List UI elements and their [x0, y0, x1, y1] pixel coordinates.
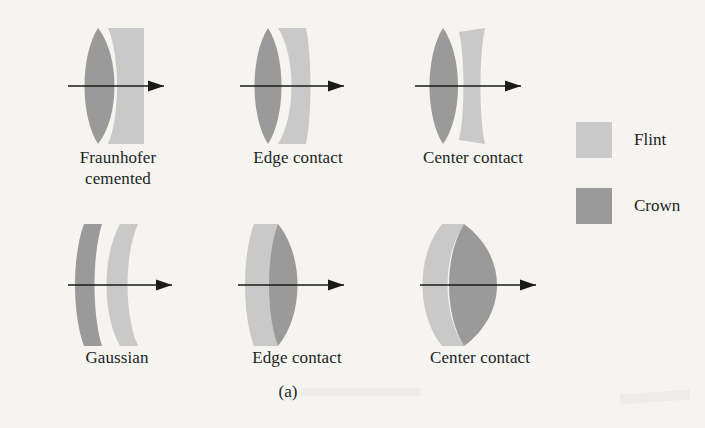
lens-diagram-bottom-center-contact — [420, 222, 550, 348]
flint-swatch — [576, 122, 612, 158]
group-label-top-edge-contact: Edge contact — [218, 148, 378, 169]
optical-axis-arrowhead — [156, 280, 172, 291]
lens-group-top-edge-contact — [240, 26, 350, 146]
lens-diagram-top-center-contact — [415, 26, 525, 146]
lens-group-top-center-contact — [415, 26, 525, 146]
lens-diagram-fraunhofer-cemented — [68, 26, 178, 146]
legend-item-flint: Flint — [576, 122, 666, 158]
group-label-bottom-edge-contact: Edge contact — [212, 348, 382, 369]
group-label-gaussian: Gaussian — [42, 348, 192, 369]
optical-axis-arrowhead — [328, 81, 344, 92]
optical-axis-arrowhead — [328, 280, 344, 291]
lens-group-bottom-center-contact — [420, 222, 550, 348]
paper-smudge — [620, 390, 691, 405]
optical-axis-arrowhead — [520, 280, 536, 291]
optical-axis-arrowhead — [148, 81, 164, 92]
lens-group-bottom-edge-contact — [238, 222, 353, 348]
figure-caption: (a) — [248, 382, 328, 402]
optical-axis-arrowhead — [505, 81, 521, 92]
group-label-top-center-contact: Center contact — [388, 148, 558, 169]
lens-diagram-bottom-edge-contact — [238, 222, 353, 348]
crown-swatch — [576, 188, 612, 224]
group-label-bottom-center-contact: Center contact — [390, 348, 570, 369]
lens-group-fraunhofer-cemented — [68, 26, 178, 146]
achromatic-doublet-figure: Fraunhofer cemented Edge contact Center … — [0, 0, 705, 428]
legend-label-crown: Crown — [634, 196, 680, 216]
group-label-fraunhofer-cemented: Fraunhofer cemented — [38, 148, 198, 189]
legend-item-crown: Crown — [576, 188, 680, 224]
lens-diagram-gaussian — [68, 222, 183, 348]
lens-group-gaussian — [68, 222, 183, 348]
legend-label-flint: Flint — [634, 130, 666, 150]
lens-diagram-top-edge-contact — [240, 26, 350, 146]
